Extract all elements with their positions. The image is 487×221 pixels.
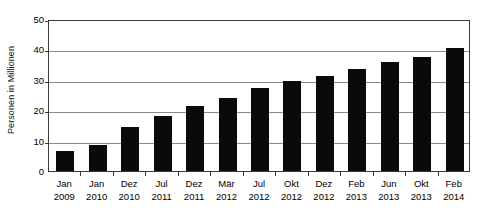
x-axis-tick-mark: [275, 172, 276, 176]
x-axis-tick-label: Mär2012: [210, 178, 242, 203]
bar: [251, 88, 269, 171]
bar: [446, 48, 464, 171]
bar: [121, 127, 139, 171]
x-axis-tick-mark: [210, 172, 211, 176]
x-axis-label-year: 2012: [275, 191, 307, 204]
x-axis-label-month: Jun: [373, 178, 405, 191]
bar: [56, 151, 74, 171]
bar: [413, 57, 431, 171]
x-axis-tick-label: Dez2012: [308, 178, 340, 203]
x-axis-label-month: Dez: [113, 178, 145, 191]
x-axis-label-year: 2012: [243, 191, 275, 204]
x-axis-tick-mark: [243, 172, 244, 176]
x-axis-label-month: Feb: [438, 178, 470, 191]
x-axis-label-year: 2013: [405, 191, 437, 204]
x-axis-tick-label: Jan2009: [48, 178, 80, 203]
x-axis-label-month: Okt: [275, 178, 307, 191]
bar: [316, 76, 334, 171]
bar: [348, 69, 366, 171]
x-axis-tick-mark: [178, 172, 179, 176]
y-axis-tick-label: 40: [22, 46, 44, 56]
x-axis-label-month: Okt: [405, 178, 437, 191]
x-axis-tick-label: Dez2010: [113, 178, 145, 203]
x-axis-label-year: 2012: [308, 191, 340, 204]
x-axis-tick-labels: Jan2009Jan2010Dez2010Jul2011Dez2011Mär20…: [48, 178, 470, 218]
x-axis-tick-label: Okt2012: [275, 178, 307, 203]
y-axis-tick-label: 0: [22, 167, 44, 177]
x-axis-label-month: Jul: [243, 178, 275, 191]
x-axis-tick-mark: [405, 172, 406, 176]
x-axis-label-year: 2010: [80, 191, 112, 204]
y-axis-title-label: Personen in Millionen: [6, 46, 16, 134]
x-axis-tick-mark: [308, 172, 309, 176]
y-axis-tick-label: 20: [22, 106, 44, 116]
x-axis-label-year: 2013: [340, 191, 372, 204]
x-axis-label-month: Jul: [145, 178, 177, 191]
x-axis-tick-label: Jun2013: [373, 178, 405, 203]
x-axis-label-year: 2009: [48, 191, 80, 204]
x-axis-label-month: Dez: [308, 178, 340, 191]
x-axis-label-year: 2014: [438, 191, 470, 204]
x-axis-tick-label: Okt2013: [405, 178, 437, 203]
x-axis-tick-mark: [340, 172, 341, 176]
x-axis-tick-label: Feb2014: [438, 178, 470, 203]
x-axis-label-year: 2010: [113, 191, 145, 204]
x-axis-tick-label: Jul2011: [145, 178, 177, 203]
plot-area: [48, 20, 470, 172]
y-axis-tick-label: 50: [22, 15, 44, 25]
bar: [89, 145, 107, 171]
x-axis-tick-mark: [373, 172, 374, 176]
y-axis-tick-labels: 01020304050: [22, 20, 44, 172]
x-axis-tick-label: Jan2010: [80, 178, 112, 203]
x-axis-tick-mark: [438, 172, 439, 176]
x-axis-tick-label: Feb2013: [340, 178, 372, 203]
x-axis-label-month: Jan: [80, 178, 112, 191]
x-axis-label-month: Feb: [340, 178, 372, 191]
x-axis-tick-marks: [48, 172, 470, 177]
bar-chart: Personen in Millionen 01020304050 Jan200…: [0, 0, 487, 221]
y-axis-title: Personen in Millionen: [0, 0, 22, 180]
x-axis-label-year: 2012: [210, 191, 242, 204]
x-axis-label-month: Jan: [48, 178, 80, 191]
bar: [381, 62, 399, 171]
x-axis-tick-label: Jul2012: [243, 178, 275, 203]
bars-layer: [49, 21, 469, 171]
x-axis-tick-mark: [80, 172, 81, 176]
x-axis-tick-mark: [113, 172, 114, 176]
x-axis-label-month: Mär: [210, 178, 242, 191]
x-axis-label-year: 2011: [178, 191, 210, 204]
x-axis-label-year: 2011: [145, 191, 177, 204]
x-axis-tick-mark: [145, 172, 146, 176]
bar: [154, 116, 172, 171]
x-axis-label-year: 2013: [373, 191, 405, 204]
y-axis-tick-label: 10: [22, 137, 44, 147]
bar: [186, 106, 204, 171]
y-axis-tick-label: 30: [22, 76, 44, 86]
x-axis-label-month: Dez: [178, 178, 210, 191]
bar: [219, 98, 237, 171]
bar: [283, 81, 301, 171]
x-axis-tick-label: Dez2011: [178, 178, 210, 203]
